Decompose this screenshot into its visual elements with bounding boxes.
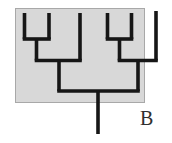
figure-panel: B — [0, 0, 172, 143]
panel-label: B — [140, 108, 153, 128]
